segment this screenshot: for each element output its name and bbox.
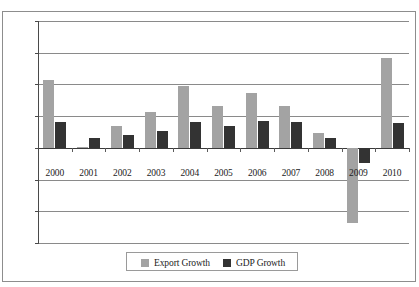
- legend-swatch-icon: [223, 259, 231, 267]
- x-tick-mark: [409, 148, 410, 152]
- bar-gdp-growth-2002: [123, 135, 134, 148]
- bar-export-growth-2007: [279, 106, 290, 148]
- bar-export-growth-2003: [145, 112, 156, 148]
- bar-gdp-growth-2004: [190, 122, 201, 147]
- plot-area: [38, 21, 409, 243]
- x-tick-label-2007: 2007: [274, 168, 308, 178]
- bar-export-growth-2005: [212, 106, 223, 148]
- bar-export-growth-2006: [246, 93, 257, 148]
- gridline-15: [38, 53, 409, 54]
- gridline-neg15: [38, 243, 409, 244]
- bar-export-growth-2010: [381, 58, 392, 148]
- x-tick-label-2000: 2000: [38, 168, 72, 178]
- x-tick-mark: [375, 148, 376, 152]
- bar-export-growth-2008: [313, 133, 324, 148]
- chart-legend: Export GrowthGDP Growth: [126, 252, 298, 271]
- bar-gdp-growth-2007: [291, 122, 302, 147]
- x-tick-label-2001: 2001: [72, 168, 106, 178]
- legend-label: Export Growth: [154, 258, 210, 268]
- bar-gdp-growth-2009: [359, 148, 370, 163]
- bar-export-growth-2004: [178, 86, 189, 148]
- legend-swatch-icon: [141, 259, 149, 267]
- bar-gdp-growth-2010: [393, 123, 404, 148]
- legend-label: GDP Growth: [236, 258, 285, 268]
- legend-entry-gdp-growth[interactable]: GDP Growth: [223, 257, 285, 268]
- chart-figure: 20.015.010.05.00.0−5.0−10.0−15.0 2000200…: [0, 0, 419, 287]
- gridline-20: [38, 21, 409, 22]
- x-tick-mark: [240, 148, 241, 152]
- bar-gdp-growth-2001: [89, 138, 100, 148]
- x-tick-mark: [274, 148, 275, 152]
- x-tick-mark: [139, 148, 140, 152]
- bar-export-growth-2000: [43, 80, 54, 148]
- x-tick-mark: [342, 148, 343, 152]
- x-tick-label-2008: 2008: [308, 168, 342, 178]
- bar-gdp-growth-2005: [224, 126, 235, 148]
- x-tick-label-2006: 2006: [240, 168, 274, 178]
- bar-export-growth-2009: [347, 148, 358, 223]
- x-tick-label-2010: 2010: [375, 168, 409, 178]
- x-tick-label-2002: 2002: [105, 168, 139, 178]
- x-tick-mark: [72, 148, 73, 152]
- x-tick-mark: [173, 148, 174, 152]
- bar-export-growth-2001: [77, 147, 88, 148]
- x-tick-label-2009: 2009: [342, 168, 376, 178]
- bar-gdp-growth-2008: [325, 138, 336, 148]
- bar-gdp-growth-2003: [157, 131, 168, 148]
- y-axis-line: [38, 21, 39, 243]
- bar-gdp-growth-2000: [55, 122, 66, 148]
- x-tick-mark: [207, 148, 208, 152]
- bar-export-growth-2002: [111, 126, 122, 148]
- y-tick-mark: [35, 243, 39, 244]
- x-tick-mark: [308, 148, 309, 152]
- x-tick-label-2004: 2004: [173, 168, 207, 178]
- x-tick-label-2005: 2005: [207, 168, 241, 178]
- x-tick-label-2003: 2003: [139, 168, 173, 178]
- gridline-10: [38, 84, 409, 85]
- x-tick-mark: [105, 148, 106, 152]
- bar-gdp-growth-2006: [258, 121, 269, 148]
- gridline-5: [38, 116, 409, 117]
- legend-entry-export-growth[interactable]: Export Growth: [141, 257, 210, 268]
